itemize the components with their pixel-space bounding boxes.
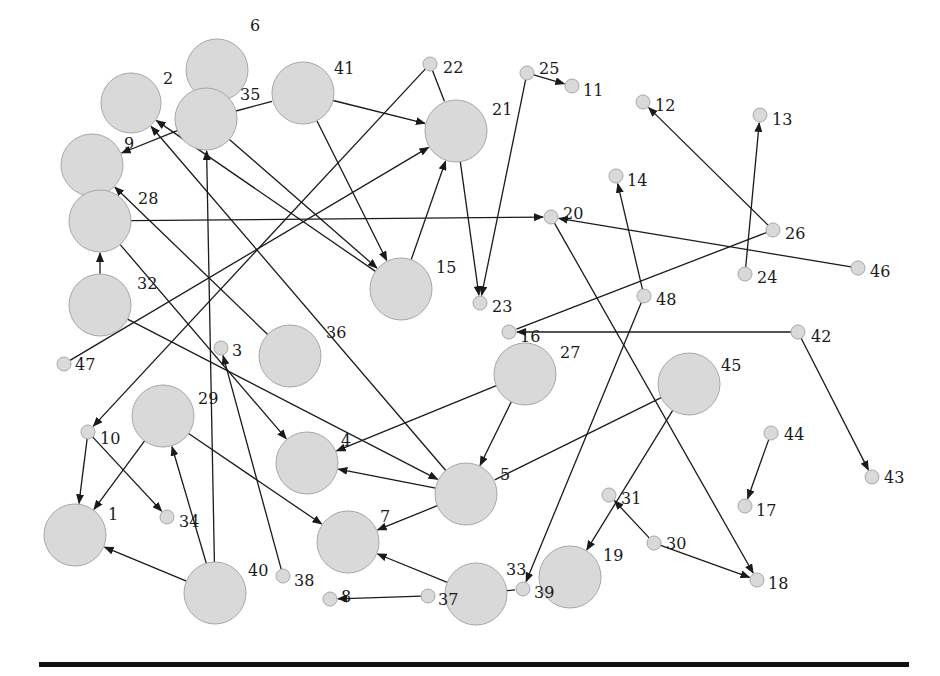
node-11 — [565, 79, 579, 93]
node-circle — [421, 589, 435, 603]
node-15 — [370, 258, 432, 320]
node-44 — [764, 426, 778, 440]
node-16 — [502, 325, 516, 339]
edge-40-to-35 — [207, 151, 215, 562]
edge-5-to-4 — [338, 469, 435, 488]
node-1 — [44, 504, 106, 566]
node-circle — [516, 582, 530, 596]
edge-29-to-1 — [94, 441, 145, 509]
node-label-47: 47 — [75, 355, 95, 374]
node-label-8: 8 — [341, 587, 351, 606]
node-24 — [738, 267, 752, 281]
node-label-14: 14 — [627, 171, 647, 190]
edge-44-to-17 — [748, 440, 769, 499]
node-22 — [423, 57, 437, 71]
node-30 — [647, 536, 661, 550]
bottom-rule — [39, 662, 909, 667]
node-label-38: 38 — [294, 571, 314, 590]
node-label-32: 32 — [137, 274, 157, 293]
node-circle — [473, 296, 487, 310]
node-21 — [425, 100, 487, 162]
node-label-24: 24 — [757, 268, 777, 287]
node-circle — [57, 357, 71, 371]
node-circle — [738, 499, 752, 513]
edge-26-to-12 — [649, 108, 768, 226]
node-45 — [658, 353, 720, 415]
node-36 — [259, 325, 321, 387]
node-37 — [421, 589, 435, 603]
node-14 — [609, 169, 623, 183]
node-3 — [214, 341, 228, 355]
node-26 — [766, 223, 780, 237]
node-label-27: 27 — [560, 343, 580, 362]
node-label-35: 35 — [240, 85, 260, 104]
node-48 — [637, 289, 651, 303]
node-4 — [276, 432, 338, 494]
node-46 — [851, 261, 865, 275]
node-label-36: 36 — [326, 323, 346, 342]
node-label-17: 17 — [756, 501, 776, 520]
node-label-21: 21 — [492, 100, 512, 119]
node-circle — [750, 573, 764, 587]
edge-27-to-4 — [337, 386, 497, 451]
node-label-12: 12 — [655, 96, 675, 115]
node-circle — [323, 592, 337, 606]
node-circle — [609, 169, 623, 183]
node-label-42: 42 — [811, 327, 831, 346]
edge-15-to-21 — [411, 161, 445, 260]
node-label-20: 20 — [563, 204, 583, 223]
node-label-13: 13 — [772, 110, 792, 129]
node-9 — [61, 134, 123, 196]
node-circle — [259, 325, 321, 387]
node-10 — [81, 425, 95, 439]
edge-10-to-1 — [79, 439, 87, 503]
node-circle — [494, 343, 556, 405]
node-label-25: 25 — [539, 59, 559, 78]
edge-42-to-43 — [801, 338, 868, 470]
node-label-1: 1 — [108, 505, 118, 524]
node-label-37: 37 — [438, 590, 458, 609]
node-label-34: 34 — [179, 512, 199, 531]
node-label-46: 46 — [870, 262, 890, 281]
edge-45-to-5 — [495, 398, 662, 480]
node-label-6: 6 — [250, 16, 260, 35]
node-32 — [69, 274, 131, 336]
node-circle — [69, 274, 131, 336]
edge-46-to-20 — [559, 218, 851, 267]
node-label-3: 3 — [232, 341, 242, 360]
node-40 — [184, 562, 246, 624]
node-label-23: 23 — [492, 297, 512, 316]
node-label-22: 22 — [443, 58, 463, 77]
node-circle — [602, 488, 616, 502]
edge-45-to-19 — [587, 410, 673, 549]
node-label-19: 19 — [603, 546, 623, 565]
node-label-45: 45 — [721, 356, 741, 375]
node-circle — [44, 504, 106, 566]
node-label-43: 43 — [884, 468, 904, 487]
node-label-48: 48 — [656, 290, 676, 309]
edge-27-to-5 — [480, 402, 511, 466]
edge-33-to-39 — [507, 590, 515, 591]
node-label-40: 40 — [248, 561, 268, 580]
edge-28-to-20 — [131, 217, 543, 221]
node-2 — [101, 73, 161, 133]
node-circle — [81, 425, 95, 439]
node-label-31: 31 — [621, 489, 641, 508]
node-circle — [160, 510, 174, 524]
node-circle — [184, 562, 246, 624]
edge-40-to-29 — [172, 447, 206, 564]
node-8 — [323, 592, 337, 606]
node-circle — [69, 190, 131, 252]
node-47 — [57, 357, 71, 371]
node-circle — [317, 511, 379, 573]
node-label-7: 7 — [380, 507, 390, 526]
node-circle — [61, 134, 123, 196]
node-circle — [370, 258, 432, 320]
node-label-29: 29 — [198, 389, 218, 408]
node-circle — [865, 470, 879, 484]
node-25 — [520, 66, 534, 80]
node-41 — [272, 62, 334, 124]
edge-10-to-34 — [93, 437, 162, 511]
node-circle — [647, 536, 661, 550]
node-label-11: 11 — [583, 81, 603, 100]
